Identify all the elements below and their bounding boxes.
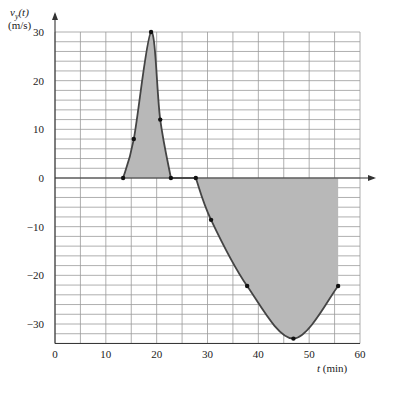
x-axis-arrow-icon	[368, 175, 376, 181]
x-tick-label: 60	[355, 348, 367, 360]
data-point	[245, 284, 249, 288]
x-tick-label: 10	[100, 348, 112, 360]
y-tick-label: −10	[27, 221, 45, 233]
data-point	[121, 176, 125, 180]
x-tick-label: 30	[202, 348, 214, 360]
x-tick-label: 40	[253, 348, 265, 360]
x-tick-label: 20	[151, 348, 163, 360]
data-point	[158, 117, 162, 121]
data-point	[209, 218, 213, 222]
y-tick-label: −30	[27, 318, 45, 330]
data-point	[149, 30, 153, 34]
y-axis-unit: (m/s)	[8, 19, 31, 31]
y-tick-label: 30	[33, 26, 45, 38]
x-axis-label: t (min)	[317, 362, 347, 374]
shaded-area	[123, 32, 338, 339]
y-tick-label: 10	[33, 123, 45, 135]
y-tick-label: 0	[39, 172, 45, 184]
x-tick-label: 50	[304, 348, 316, 360]
data-point	[194, 176, 198, 180]
velocity-chart: 01020304050603020100−10−20−30	[0, 0, 393, 393]
x-tick-label: 0	[52, 348, 58, 360]
data-point	[132, 137, 136, 141]
data-point	[336, 284, 340, 288]
y-tick-label: −20	[27, 269, 45, 281]
data-point	[169, 176, 173, 180]
y-axis-arrow-icon	[52, 12, 58, 20]
y-tick-label: 20	[33, 75, 45, 87]
data-point	[291, 336, 295, 340]
